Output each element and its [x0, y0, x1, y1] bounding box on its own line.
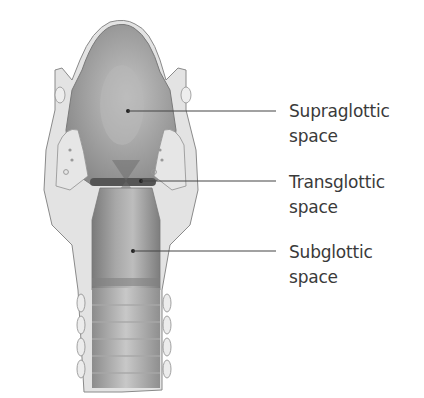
label-line1: Subglottic [289, 240, 373, 265]
subglottic-lumen [92, 188, 160, 290]
label-subglottic-space: Subglottic space [289, 240, 373, 290]
label-line1: Transglottic [289, 170, 385, 195]
label-transglottic-space: Transglottic space [289, 170, 385, 220]
label-line2: space [289, 265, 373, 290]
label-line2: space [289, 195, 385, 220]
label-line1: Supraglottic [289, 99, 390, 124]
label-supraglottic-space: Supraglottic space [289, 99, 390, 149]
label-line2: space [289, 124, 390, 149]
